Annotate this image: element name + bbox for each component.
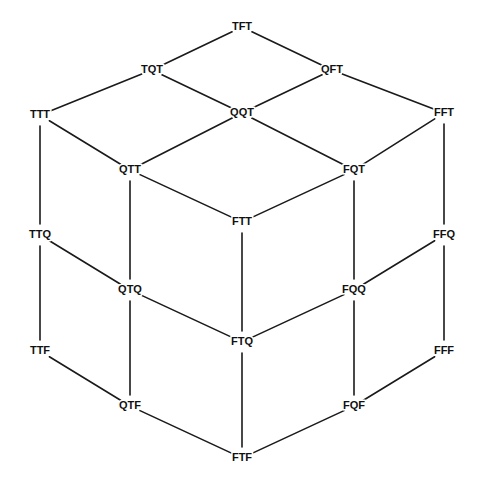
lattice-node-label: FQF [343,399,365,411]
lattice-edge [252,411,344,454]
lattice-node-label: FTQ [231,335,253,347]
lattice-node-label: FFT [434,106,454,118]
lattice-edge [252,32,322,66]
lattice-node-label: FTT [232,215,252,227]
lattice-node-label: FFF [434,344,454,356]
lattice-edge [49,357,120,401]
edge-layer [40,32,444,454]
lattice-node-label: FQQ [342,283,366,295]
lattice-edge [162,32,232,66]
lattice-edge [140,175,232,218]
lattice-node-label: TTQ [29,228,51,240]
lattice-node-label: TTF [30,344,50,356]
lattice-node-label: FTF [232,451,252,463]
lattice-edge [363,241,434,285]
lattice-node-label: TTT [30,108,50,120]
lattice-node-label: QTQ [118,283,142,295]
lattice-node-label: QQT [230,106,254,118]
lattice-edge [140,295,232,338]
lattice-edge [162,75,232,109]
lattice-node-label: TQT [141,63,163,75]
lattice-edge [252,118,344,165]
lattice-edge [140,118,232,165]
lattice-edge [363,119,434,164]
lattice-edge [140,411,232,454]
lattice-node-label: TFT [232,20,252,32]
lattice-node-label: QTT [119,163,141,175]
lattice-edge [49,121,120,165]
lattice-edge [342,74,433,109]
lattice-edge [252,295,344,338]
lattice-node-label: FFQ [433,228,455,240]
lattice-node-label: QTF [119,399,141,411]
cube-lattice-svg: TFTTQTQFTTTTQQTFFTQTTFQTFTTTTQFFQQTQFQQF… [0,0,485,492]
lattice-edge [252,175,344,218]
lattice-edge [363,357,434,401]
lattice-edge [49,241,120,285]
lattice-node-label: FQT [343,163,365,175]
lattice-edge [252,75,322,109]
lattice-diagram: TFTTQTQFTTTTQQTFFTQTTFQTFTTTTQFFQQTQFQQF… [0,0,485,492]
lattice-node-label: QFT [321,63,343,75]
lattice-edge [50,74,142,111]
